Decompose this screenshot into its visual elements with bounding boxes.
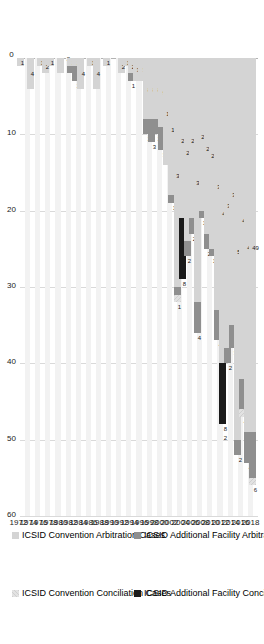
data-label: 4	[198, 335, 201, 342]
bar-row: 496	[253, 58, 258, 516]
x-tick-50: 50	[7, 434, 16, 443]
legend-swatch-icon	[12, 590, 19, 597]
bar-segment-af-arb[interactable]	[174, 287, 181, 295]
bar-segment-conv-con[interactable]	[250, 478, 257, 486]
data-label: 1	[107, 60, 110, 67]
x-tick-30: 30	[7, 281, 16, 290]
data-label: 2	[239, 457, 242, 464]
data-label: 1	[178, 304, 181, 311]
bar-segment-af-arb[interactable]	[224, 348, 231, 363]
legend-swatch-icon	[134, 590, 141, 597]
data-label: 8	[183, 282, 186, 289]
data-label: 49	[252, 245, 259, 252]
data-label: 3	[153, 144, 156, 151]
stacked-bar[interactable]	[57, 58, 64, 73]
x-axis-tick-labels: 0102030405060	[2, 58, 18, 516]
data-label: 1	[21, 60, 24, 67]
x-tick-20: 20	[7, 205, 16, 214]
chart-rotation-wrapper: 1412121112414121213382838293141813012182…	[0, 0, 264, 644]
legend-label: ICSID Additional Facility Conciliation C…	[144, 588, 264, 598]
data-label: 2	[228, 366, 231, 373]
data-label: 2	[223, 436, 226, 443]
chart-frame: 1412121112414121213382838293141813012182…	[0, 0, 264, 644]
data-label: 1	[51, 60, 54, 67]
legend-item[interactable]: ICSID Additional Facility Conciliation C…	[134, 588, 264, 598]
bar-rows: 1412121112414121213382838293141813012182…	[20, 58, 258, 516]
icsid-cases-stacked-bar-chart: 1412121112414121213382838293141813012182…	[0, 0, 264, 644]
legend-swatch-icon	[12, 532, 19, 539]
data-label: 4	[82, 71, 85, 78]
bar-segment-conv-arb[interactable]	[57, 58, 64, 73]
bar-segment-af-arb[interactable]	[194, 302, 201, 333]
data-label: 1	[132, 83, 135, 90]
legend-label: ICSID Additional Facility Arbitration Ca…	[144, 530, 264, 540]
data-label: 4	[31, 71, 34, 78]
x-tick-60: 60	[7, 510, 16, 519]
bar-segment-af-arb[interactable]	[234, 440, 241, 455]
data-label: 2	[188, 259, 191, 266]
data-label: 4	[97, 71, 100, 78]
bar-segment-conv-con[interactable]	[174, 295, 181, 303]
year-tick-2018: 2018	[242, 518, 260, 527]
legend-swatch-icon	[134, 532, 141, 539]
bar-segment-af-con[interactable]	[219, 363, 226, 424]
x-tick-10: 10	[7, 128, 16, 137]
plot-area: 1412121112414121213382838293141813012182…	[20, 58, 258, 516]
stacked-bar[interactable]	[250, 58, 257, 485]
bar-segment-af-arb[interactable]	[250, 432, 257, 478]
legend-item[interactable]: ICSID Additional Facility Arbitration Ca…	[134, 530, 264, 540]
x-tick-40: 40	[7, 357, 16, 366]
bar-segment-af-arb[interactable]	[184, 241, 191, 256]
data-label: 6	[254, 488, 257, 495]
data-label: 8	[223, 427, 226, 434]
x-tick-0: 0	[9, 50, 13, 59]
